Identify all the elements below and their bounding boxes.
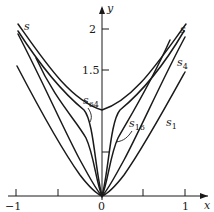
- label-s4: s4: [177, 56, 188, 71]
- label-s-left: s: [24, 20, 30, 33]
- x-tick-label-0: 0: [98, 200, 105, 212]
- x-axis-label: x: [204, 199, 211, 212]
- label-s16: s16: [129, 117, 145, 132]
- y-ticks: [102, 29, 109, 152]
- label-s64: s64: [83, 94, 99, 109]
- label-s1: s1: [166, 116, 177, 131]
- y-tick-label-2: 2: [89, 23, 96, 36]
- x-tick-label-1: 1: [182, 200, 189, 212]
- label-s-right: s: [180, 23, 186, 36]
- y-tick-label-1-5: 1.5: [82, 64, 100, 77]
- y-axis-arrow-icon: [99, 6, 105, 14]
- figure: −1 0 1 2 1.5 x y s s s4 s64 s16 s1: [0, 0, 214, 212]
- y-axis-label: y: [106, 2, 114, 15]
- curve-s16: [36, 40, 170, 196]
- x-tick-label-neg1: −1: [5, 200, 21, 212]
